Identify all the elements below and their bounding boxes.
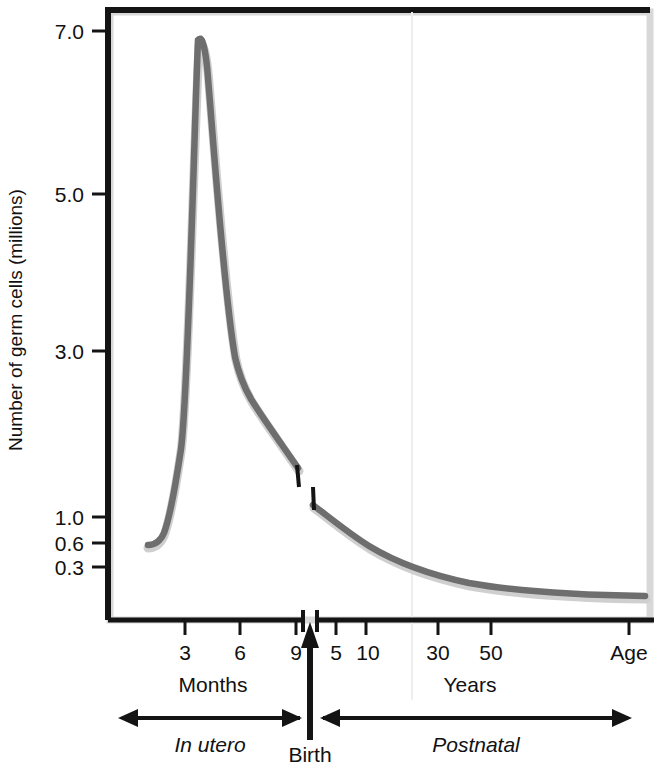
in-utero-label: In utero [174,733,246,756]
x-axis-segment-label-months: Months [179,673,248,696]
y-tick-label-7: 7.0 [55,20,84,43]
x-axis-end-label: Age [610,641,647,664]
y-tick-label-1: 1.0 [55,506,84,529]
germ-cell-chart-figure: 7.0 5.0 3.0 1.0 0.6 0.3 Number of germ c… [0,0,655,768]
birth-label: Birth [288,743,331,766]
postnatal-label: Postnatal [432,733,521,756]
x-tick-label-year-10: 10 [356,641,379,664]
x-tick-label-month-3: 3 [179,641,191,664]
chart-canvas: 7.0 5.0 3.0 1.0 0.6 0.3 Number of germ c… [0,0,655,768]
x-tick-label-month-9: 9 [290,641,302,664]
curve-break-cap-postnatal [313,487,314,510]
x-tick-label-year-30: 30 [426,641,449,664]
x-tick-label-year-5: 5 [330,641,342,664]
y-axis-title: Number of germ cells (millions) [5,189,26,451]
x-tick-label-year-50: 50 [479,641,502,664]
y-tick-label-3: 3.0 [55,340,84,363]
y-tick-label-0-3: 0.3 [55,556,84,579]
x-axis-segment-label-years: Years [444,673,497,696]
curve-break-cap-prenatal [297,465,299,487]
y-tick-label-0-6: 0.6 [55,532,84,555]
y-tick-label-5: 5.0 [55,183,84,206]
x-tick-label-month-6: 6 [234,641,246,664]
